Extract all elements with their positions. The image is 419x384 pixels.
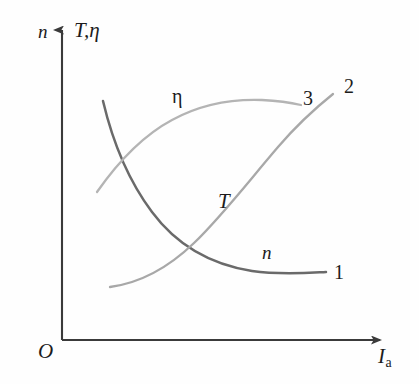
- x-axis-label-main: I: [378, 344, 385, 368]
- curve-speed-n: [103, 101, 326, 273]
- origin-label: O: [38, 341, 53, 362]
- curve-efficiency-eta: [97, 100, 301, 192]
- x-axis-label-subscript: a: [385, 355, 392, 370]
- x-axis-label-armature-current: Ia: [378, 346, 392, 370]
- curve-label-torque: T: [218, 191, 230, 212]
- figure-container: n T,η Ia O η T n 1 2 3: [0, 0, 419, 384]
- y-axis-label-torque-efficiency: T,η: [74, 20, 100, 41]
- curve-number-1: 1: [334, 262, 344, 282]
- y-axis-label-speed: n: [38, 22, 48, 41]
- curve-number-2: 2: [344, 76, 354, 96]
- curve-label-speed: n: [262, 243, 272, 262]
- chart-plot-area: [0, 0, 419, 384]
- curve-number-3: 3: [303, 88, 313, 108]
- curve-label-efficiency: η: [172, 86, 182, 106]
